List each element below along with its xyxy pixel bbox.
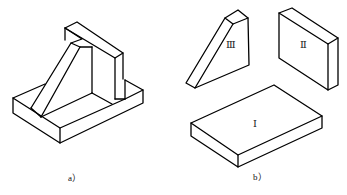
- figure: Ⅲ Ⅱ Ⅰ a） b）: [0, 0, 347, 195]
- part-II-plate: [279, 8, 338, 90]
- part-label-I: Ⅰ: [253, 119, 257, 129]
- part-label-II: Ⅱ: [300, 40, 307, 50]
- part-label-III: Ⅲ: [226, 40, 236, 50]
- caption-a: a）: [68, 174, 81, 183]
- isometric-drawing: [0, 0, 347, 195]
- caption-b: b）: [253, 173, 267, 182]
- assembled-bracket: [13, 22, 143, 143]
- part-III-rib: [186, 10, 249, 88]
